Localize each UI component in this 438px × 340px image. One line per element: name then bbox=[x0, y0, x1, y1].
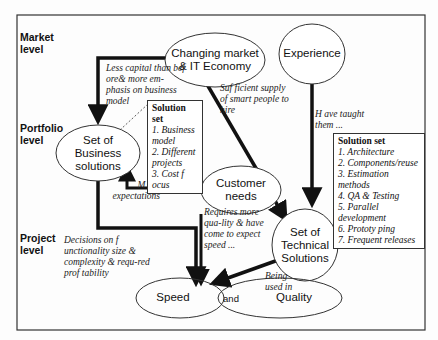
technical-solution-set-item: 1. Architecture bbox=[338, 147, 420, 158]
edge-label-decisions: Decisions on f unctionality size & compl… bbox=[64, 235, 160, 279]
business-solution-set-item: 2. Different projects bbox=[152, 147, 198, 169]
business-solution-set-item: 1. Business model bbox=[152, 125, 198, 147]
edge-label-requires-quality: Requires more qua-lity & have come to ex… bbox=[204, 207, 276, 251]
level-label-portfolio: Portfolio level bbox=[20, 122, 65, 146]
technical-solution-set-item: 7. Frequent releases bbox=[338, 235, 420, 246]
level-label-market: Market level bbox=[20, 31, 60, 55]
node-speed: Speed bbox=[150, 291, 196, 304]
node-business-solutions: Set of Business solutions bbox=[68, 134, 128, 173]
diagram-canvas: Market level Portfolio level Project lev… bbox=[0, 0, 438, 340]
technical-solution-set-box: Solution set 1. Architecture 2. Componen… bbox=[333, 133, 425, 249]
technical-solution-set-item: 5. Parallel development bbox=[338, 202, 420, 224]
dashed-link-business-solution-set bbox=[120, 104, 148, 130]
technical-solution-set-title: Solution set bbox=[338, 136, 420, 147]
level-label-project: Project level bbox=[20, 232, 60, 256]
business-solution-set-item: 3. Cost f ocus bbox=[152, 169, 198, 191]
technical-solution-set-item: 2. Components/reuse bbox=[338, 158, 420, 169]
technical-solution-set-item: 3. Estimation methods bbox=[338, 169, 420, 191]
edge-label-have-taught: H ave taught them ... bbox=[315, 109, 365, 131]
edge-label-being-used: Being used in bbox=[265, 271, 297, 293]
edge-label-sufficient-supply: Suf ficient supply of smart people to hi… bbox=[220, 83, 292, 116]
node-and: and bbox=[216, 292, 246, 305]
business-solution-set-title: Solution set bbox=[152, 103, 198, 125]
technical-solution-set-item: 4. QA & Testing bbox=[338, 191, 420, 202]
technical-solution-set-item: 6. Prototy ping bbox=[338, 224, 420, 235]
node-technical-solutions: Set of Technical Solutions bbox=[275, 226, 335, 265]
node-experience: Experience bbox=[282, 47, 342, 60]
business-solution-set-box: Solution set 1. Business model 2. Differ… bbox=[147, 100, 203, 194]
node-customer-needs: Customer needs bbox=[206, 177, 276, 203]
